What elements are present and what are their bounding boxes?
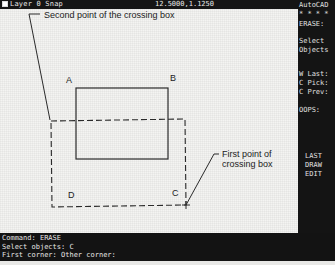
status-bar: Layer 0 Snap 12.5000,1.1250 bbox=[0, 0, 298, 9]
menu-item-erase[interactable]: ERASE: bbox=[299, 20, 324, 29]
annotation-first-point-line1: First point of bbox=[222, 149, 273, 159]
command-line-1: Command: ERASE bbox=[2, 234, 335, 243]
menu-item-edit[interactable]: EDIT bbox=[305, 170, 322, 179]
menu-item-draw[interactable]: DRAW bbox=[305, 161, 322, 170]
side-screen-menu: AutoCAD * * * * ERASE: Select Objects W … bbox=[298, 0, 335, 233]
layer-color-box-icon bbox=[2, 1, 8, 7]
command-line-2: Select objects: C bbox=[2, 243, 335, 252]
vertex-label-b: B bbox=[170, 73, 176, 83]
menu-separator-stars[interactable]: * * * * bbox=[299, 10, 329, 19]
vertex-label-d: D bbox=[68, 190, 75, 200]
bottom-border bbox=[0, 261, 335, 265]
menu-item-prev[interactable]: C Prev: bbox=[299, 88, 329, 97]
menu-item-objects[interactable]: Objects bbox=[299, 46, 329, 55]
drawing-canvas bbox=[0, 9, 298, 233]
menu-item-select[interactable]: Select bbox=[299, 37, 324, 46]
vertex-label-c: C bbox=[172, 188, 179, 198]
command-line-area[interactable]: Command: ERASE Select objects: C First c… bbox=[0, 233, 335, 261]
leader-first-point bbox=[186, 154, 219, 205]
menu-item-oops[interactable]: OOPS: bbox=[299, 106, 320, 115]
menu-item-last[interactable]: W Last: bbox=[299, 70, 329, 79]
annotation-first-point: First point of crossing box bbox=[222, 149, 273, 169]
menu-header-autocad[interactable]: AutoCAD bbox=[299, 1, 329, 10]
coordinate-display: 12.5000,1.1250 bbox=[155, 0, 214, 9]
layer-snap-status: Layer 0 Snap bbox=[10, 0, 63, 9]
command-line-3: First corner: Other corner: bbox=[2, 251, 335, 260]
drawing-area[interactable]: Second point of the crossing box First p… bbox=[0, 9, 298, 233]
square-abcd bbox=[76, 88, 168, 159]
annotation-first-point-line2: crossing box bbox=[222, 159, 273, 169]
menu-item-pick[interactable]: C Pick: bbox=[299, 79, 329, 88]
leader-second-point bbox=[29, 14, 50, 120]
vertex-label-a: A bbox=[66, 75, 72, 85]
menu-item-last-menu[interactable]: LAST bbox=[305, 152, 322, 161]
annotation-second-point: Second point of the crossing box bbox=[44, 10, 175, 20]
